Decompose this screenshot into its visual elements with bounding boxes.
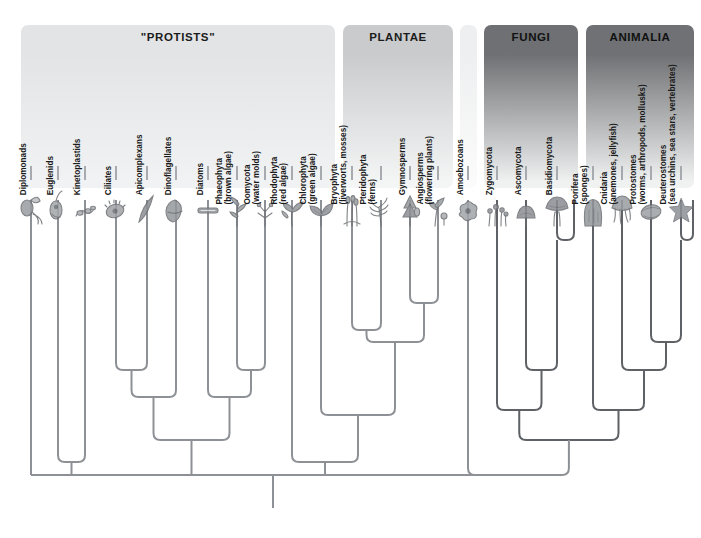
clade-euglenozoa: [58, 200, 85, 462]
taxon-common-name-oomycota: (water molds): [253, 151, 262, 205]
taxon-name-euglenids: Euglenids: [46, 156, 55, 195]
taxon-name-rhodophyta: Rhodophyta: [270, 157, 279, 205]
taxon-label-diplomonads: Diplomonads: [19, 143, 28, 195]
taxon-label-deuterostomes: Deuterostomes(sea urchins, sea stars, ve…: [659, 64, 678, 204]
taxon-label-kinetoplastids: Kinetoplastids: [73, 139, 82, 196]
taxon-name-zygomycota: Zygomycota: [485, 147, 494, 195]
clade-opisthokonta: [519, 410, 618, 440]
taxon-label-amoebozoans: Amoebozoans: [456, 139, 465, 195]
clade-chromalveolata: [154, 397, 230, 440]
taxon-label-dinoflagellates: Dinoflagellates: [164, 137, 173, 196]
clade-vascular-plants: [367, 303, 425, 342]
taxon-label-basidiomycota: Basidiomycota: [545, 137, 554, 196]
taxon-name-chlorophyta: Chlorophyta: [299, 156, 308, 204]
phylogenetic-tree-figure: "PROTISTS"PLANTAEFUNGIANIMALIA Diplomona…: [0, 0, 701, 538]
taxon-name-phaeophyta: Phaeophyta: [215, 158, 224, 205]
taxon-name-dinoflagellates: Dinoflagellates: [164, 137, 173, 196]
clade-metazoa: [593, 200, 644, 410]
taxon-name-diatoms: Diatoms: [196, 163, 205, 195]
cladogram-branches: [0, 0, 701, 538]
taxon-label-diatoms: Diatoms: [196, 163, 205, 195]
taxon-name-protostomes: Protostomes: [629, 154, 638, 204]
taxon-name-oomycota: Oomycota: [243, 164, 252, 204]
taxon-label-ascomycota: Ascomycota: [514, 146, 523, 195]
taxon-label-pteridophyta: Pteridophyta(ferns): [359, 154, 378, 204]
taxon-label-chlorophyta: Chlorophyta(green algae): [299, 153, 318, 204]
taxon-label-porifera: Porifera(sponges): [571, 165, 590, 204]
taxon-label-cnidaria: Cnidaria(anemones, jellyfish): [600, 123, 619, 204]
clade-viridiplantae: [321, 200, 395, 415]
taxon-label-rhodophyta: Rhodophyta(red algae): [270, 157, 289, 205]
taxon-name-kinetoplastids: Kinetoplastids: [73, 139, 82, 196]
taxon-label-zygomycota: Zygomycota: [485, 147, 494, 195]
taxon-common-name-rhodophyta: (red algae): [280, 157, 289, 205]
taxon-name-bryophyta: Bryophyta: [330, 164, 339, 205]
taxon-name-basidiomycota: Basidiomycota: [545, 137, 554, 196]
taxon-label-euglenids: Euglenids: [46, 156, 55, 195]
taxon-label-protostomes: Protostomes(worms, arthropods, mollusks): [629, 84, 648, 204]
taxon-name-ciliates: Ciliates: [104, 166, 113, 195]
taxon-name-pteridophyta: Pteridophyta: [359, 154, 368, 204]
clade-fungi: [497, 200, 542, 410]
clade-archaeplastida: [292, 200, 358, 462]
taxon-common-name-bryophyta: (liverworts, mosses): [340, 125, 349, 205]
taxon-name-diplomonads: Diplomonads: [19, 143, 28, 195]
taxon-name-amoebozoans: Amoebozoans: [456, 139, 465, 195]
clade-alveolata: [132, 200, 177, 397]
taxon-common-name-cnidaria: (anemones, jellyfish): [610, 123, 619, 204]
taxon-label-gymnosperms: Gymnosperms: [398, 138, 407, 196]
taxon-name-angiosperms: Angiosperms: [416, 152, 425, 205]
taxon-label-phaeophyta: Phaeophyta(brown algae): [215, 151, 234, 204]
taxon-common-name-phaeophyta: (brown algae): [225, 151, 234, 204]
taxon-name-gymnosperms: Gymnosperms: [398, 138, 407, 196]
taxon-label-angiosperms: Angiosperms(flowering plants): [416, 136, 435, 205]
taxon-name-deuterostomes: Deuterostomes: [659, 145, 668, 205]
taxon-common-name-porifera: (sponges): [581, 165, 590, 204]
taxon-common-name-chlorophyta: (green algae): [309, 153, 318, 204]
taxon-common-name-protostomes: (worms, arthropods, mollusks): [639, 84, 648, 204]
taxon-label-bryophyta: Bryophyta(liverworts, mosses): [330, 125, 349, 205]
taxon-name-cnidaria: Cnidaria: [600, 172, 609, 205]
taxon-name-porifera: Porifera: [571, 173, 580, 204]
taxon-common-name-pteridophyta: (ferns): [369, 154, 378, 204]
taxon-label-ciliates: Ciliates: [104, 166, 113, 195]
taxon-common-name-angiosperms: (flowering plants): [426, 136, 435, 205]
taxon-name-ascomycota: Ascomycota: [514, 146, 523, 195]
taxon-label-apicomplexans: Apicomplexans: [135, 135, 144, 196]
clade-stramenopiles: [208, 200, 251, 397]
taxon-label-oomycota: Oomycota(water molds): [243, 151, 262, 205]
taxon-common-name-deuterostomes: (sea urchins, sea stars, vertebrates): [669, 64, 678, 204]
taxon-name-apicomplexans: Apicomplexans: [135, 135, 144, 196]
